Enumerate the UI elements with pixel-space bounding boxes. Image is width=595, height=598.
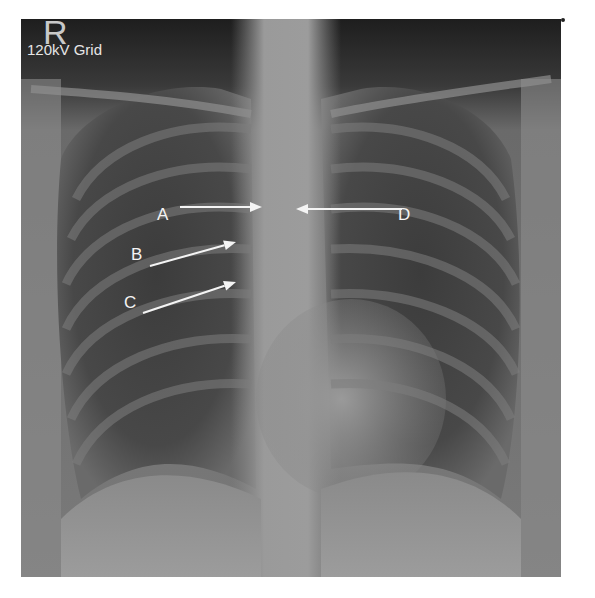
annotation-label-a: A [157,205,168,225]
annotation-label-c: C [124,293,136,313]
xray-anatomy [21,19,561,577]
chest-xray-image: R 120kV Grid ABCD [21,19,561,577]
corner-dot [561,18,565,22]
annotation-label-d: D [398,205,410,225]
technique-label: 120kV Grid [27,41,102,58]
annotation-label-b: B [131,245,142,265]
